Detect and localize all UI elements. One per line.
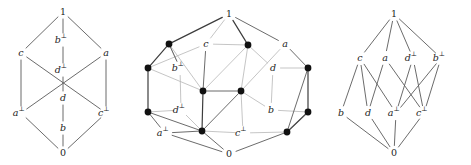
hasse-diagram-figure: 1b⊥cad⊥da⊥c⊥b0 1cab⊥dd⊥ba⊥c⊥0 1cad⊥b⊥bda… xyxy=(0,0,471,165)
edge-d-n_tc xyxy=(251,47,268,62)
node-label-diagram-3-bperp: b⊥ xyxy=(433,50,445,63)
edge-n_bbr-bot xyxy=(236,133,284,151)
node-label-diagram-1-aperp: a⊥ xyxy=(13,105,25,118)
edge-b-bot xyxy=(347,118,388,149)
edge-c-aperp xyxy=(364,64,392,106)
node-label-diagram-2-top: 1 xyxy=(226,8,232,19)
diagram-middle-labels: 1cab⊥dd⊥ba⊥c⊥0 xyxy=(157,8,288,159)
node-label-diagram-2-d: d xyxy=(270,62,276,73)
diagram-right-edges xyxy=(343,19,438,148)
node-dot-diagram-2-n_br xyxy=(305,109,312,116)
edge-top-n_tc xyxy=(233,20,246,42)
node-label-diagram-2-bot: 0 xyxy=(226,148,232,159)
edge-n_tc-n_cr xyxy=(242,49,248,88)
edge-b-n_br xyxy=(278,110,304,111)
node-dot-diagram-2-n_bl xyxy=(145,109,152,116)
node-label-diagram-2-c: c xyxy=(203,38,209,49)
edge-bperp-dperp xyxy=(180,76,181,103)
diagram-middle-canvas: 1cab⊥dd⊥ba⊥c⊥0 xyxy=(140,0,325,165)
node-label-diagram-3-bot: 0 xyxy=(391,147,397,158)
edge-aperp-bot xyxy=(26,118,58,148)
edge-a-d xyxy=(370,65,383,106)
edge-cperp-n_cr xyxy=(241,95,242,126)
edge-n_tc-n_cl xyxy=(206,48,246,89)
node-label-diagram-2-b: b xyxy=(268,104,274,115)
diagram-right-canvas: 1cad⊥b⊥bda⊥c⊥0 xyxy=(320,0,471,165)
node-dot-diagram-2-n_bbr xyxy=(284,129,291,136)
node-label-diagram-3-top: 1 xyxy=(391,8,397,19)
node-label-diagram-1-a: a xyxy=(103,47,109,58)
diagram-left-canvas: 1b⊥cad⊥da⊥c⊥b0 xyxy=(0,0,150,165)
node-label-diagram-2-dperp: d⊥ xyxy=(173,102,185,115)
hasse-diagram-right: 1cad⊥b⊥bda⊥c⊥0 xyxy=(320,0,471,165)
node-dot-diagram-2-n_cl xyxy=(200,88,207,95)
edge-top-dperp xyxy=(397,21,410,51)
edge-c-n_cl xyxy=(203,51,205,87)
edge-dperp-aperp xyxy=(398,65,411,106)
edge-top-n_tl xyxy=(172,17,222,42)
node-dot-diagram-2-n_ml xyxy=(145,65,152,72)
edge-cperp-bot xyxy=(68,118,101,148)
node-label-diagram-1-c: c xyxy=(18,47,24,58)
node-label-diagram-3-b: b xyxy=(338,107,344,118)
edge-n_cr-n_bbl xyxy=(205,94,239,129)
edge-n_bl-aperp xyxy=(150,115,160,127)
node-dot-diagram-2-n_mr xyxy=(305,65,312,72)
edge-c-b xyxy=(343,65,357,106)
edge-c-d xyxy=(361,65,367,105)
edge-top-a xyxy=(387,21,393,50)
node-label-diagram-2-bperp: b⊥ xyxy=(172,60,184,73)
edge-cperp-n_bbr xyxy=(251,132,284,133)
diagram-right-labels: 1cad⊥b⊥bda⊥c⊥0 xyxy=(338,8,445,158)
edge-aperp-n_bbl xyxy=(172,131,198,132)
hasse-diagram-middle: 1cab⊥dd⊥ba⊥c⊥0 xyxy=(140,0,325,165)
node-label-diagram-2-cperp: c⊥ xyxy=(235,125,247,138)
edge-top-bperp xyxy=(399,19,435,53)
edge-aperp-bot xyxy=(172,135,222,151)
edge-top-a xyxy=(236,18,279,41)
node-label-diagram-1-b: b xyxy=(60,122,66,133)
edge-dperp-n_bl xyxy=(152,110,174,111)
node-label-diagram-1-bperp: b⊥ xyxy=(55,32,67,45)
node-label-diagram-3-cperp: c⊥ xyxy=(416,105,428,118)
edge-aperp-bot xyxy=(394,120,395,145)
edge-n_cl-n_bbl xyxy=(202,95,203,128)
node-label-diagram-3-a: a xyxy=(382,52,388,63)
node-label-diagram-1-top: 1 xyxy=(60,6,66,17)
node-label-diagram-1-dperp: d⊥ xyxy=(55,62,67,75)
edge-cperp-bot xyxy=(399,119,420,147)
node-label-diagram-1-d: d xyxy=(60,92,66,103)
edge-n_bbr-n_mr xyxy=(288,71,307,128)
node-dot-diagram-2-n_tl xyxy=(166,41,173,48)
node-label-diagram-3-aperp: a⊥ xyxy=(388,105,400,118)
edge-c-n_tc xyxy=(214,44,245,45)
node-dot-diagram-2-n_cr xyxy=(238,88,245,95)
node-label-diagram-2-a: a xyxy=(282,38,288,49)
edge-cperp-n_bbl xyxy=(206,131,236,132)
edge-a-n_mr xyxy=(290,49,305,65)
edge-bperp-aperp xyxy=(401,64,437,107)
edge-n_cr-b xyxy=(244,93,265,106)
edge-top-c xyxy=(26,17,58,48)
diagram-middle-dots xyxy=(145,41,312,136)
edge-d-bot xyxy=(372,119,390,146)
node-label-diagram-3-d: d xyxy=(365,107,371,118)
node-label-diagram-3-dperp: d⊥ xyxy=(405,50,417,63)
node-label-diagram-3-c: c xyxy=(357,52,363,63)
edge-top-c xyxy=(365,20,390,52)
node-dot-diagram-2-n_tc xyxy=(245,42,252,49)
edge-top-a xyxy=(68,17,101,48)
edge-n_tl-n_ml xyxy=(150,47,166,66)
node-label-diagram-1-bot: 0 xyxy=(60,147,66,158)
node-label-diagram-1-cperp: c⊥ xyxy=(98,105,110,118)
hasse-diagram-left: 1b⊥cad⊥da⊥c⊥b0 xyxy=(0,0,150,165)
edge-bperp-cperp xyxy=(426,65,439,106)
node-label-diagram-2-aperp: a⊥ xyxy=(157,125,169,138)
edge-d-b xyxy=(271,75,272,102)
node-dot-diagram-2-n_bbl xyxy=(199,128,206,135)
